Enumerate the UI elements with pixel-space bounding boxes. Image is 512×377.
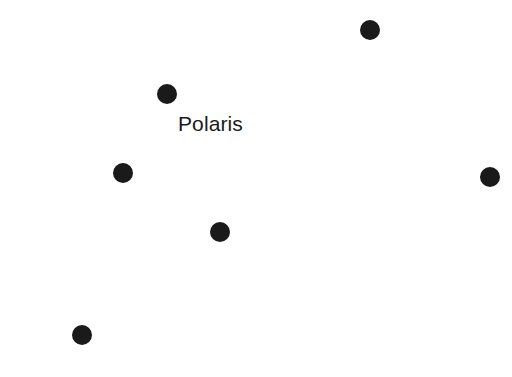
star-chart-canvas: Polaris — [0, 0, 512, 377]
star-label-polaris: Polaris — [178, 113, 243, 134]
star-marker — [157, 84, 177, 104]
star-marker — [72, 325, 92, 345]
star-marker — [480, 167, 500, 187]
star-marker — [210, 222, 230, 242]
star-marker — [360, 20, 380, 40]
star-marker — [113, 163, 133, 183]
star-field — [0, 0, 512, 377]
